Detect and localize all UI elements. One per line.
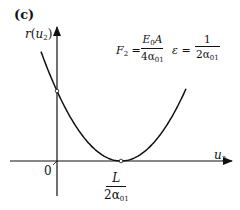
panel-label: (c) xyxy=(14,7,34,22)
F2-numerator: E0A xyxy=(141,34,163,49)
F2-denominator: 4α01 xyxy=(141,49,164,64)
y-label-sub: 2 xyxy=(43,34,47,42)
x-axis-label: u2 xyxy=(214,148,226,163)
epsilon-numerator: 1 xyxy=(195,34,220,47)
vertex-point xyxy=(119,159,123,163)
x-label-var: u xyxy=(214,148,222,162)
parabola-curve xyxy=(41,52,186,161)
vertex-label: L 2α01 xyxy=(104,172,129,203)
formula-epsilon: ε = xyxy=(172,44,191,57)
origin-label: 0 xyxy=(44,164,52,178)
epsilon-denominator: 2α01 xyxy=(196,47,219,62)
formula-F2-fraction: E0A 4α01 xyxy=(141,34,164,64)
vertex-label-denominator: 2α01 xyxy=(104,187,129,203)
y-label-arg: u xyxy=(35,27,43,41)
y-label-fn: r xyxy=(25,27,31,41)
vertex-label-numerator: L xyxy=(106,172,126,187)
y-axis-label: r(u2) xyxy=(25,27,52,42)
y-intercept-point xyxy=(55,89,59,93)
formula-F2: F2 = xyxy=(116,44,141,58)
x-label-sub: 2 xyxy=(222,155,226,163)
formula-epsilon-fraction: 1 2α01 xyxy=(195,34,220,62)
